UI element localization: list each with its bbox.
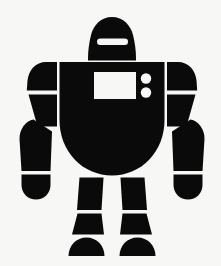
chest-panel-icon <box>94 72 136 99</box>
torso-group <box>60 62 165 176</box>
left-thigh-icon <box>77 178 104 211</box>
right-shin-icon <box>120 214 152 235</box>
right-thigh-icon <box>121 178 148 211</box>
chest-light-upper-icon <box>141 73 151 83</box>
visor-slot-icon <box>97 39 128 46</box>
chest-light-lower-icon <box>141 87 151 97</box>
robot-illustration-canvas <box>0 0 221 266</box>
left-shin-icon <box>72 214 104 235</box>
robot-silhouette-svg <box>0 0 221 266</box>
